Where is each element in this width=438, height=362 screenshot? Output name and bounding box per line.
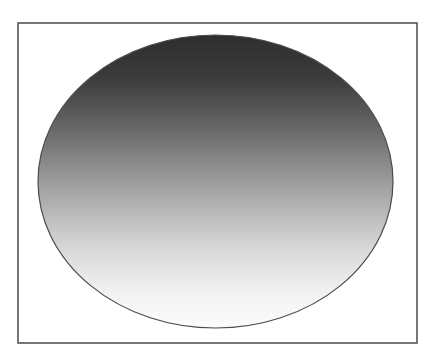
- gradient-ellipse: [38, 35, 393, 328]
- figure-canvas: [0, 0, 438, 362]
